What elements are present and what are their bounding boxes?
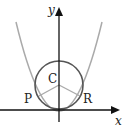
parabola-circle-diagram: y x C P R xyxy=(0,0,132,130)
y-axis-label: y xyxy=(47,3,55,17)
point-c-label: C xyxy=(48,72,57,86)
point-r-label: R xyxy=(83,92,93,106)
x-axis-arrow-icon xyxy=(111,106,120,114)
segment-cp xyxy=(39,85,59,96)
y-axis-arrow-icon xyxy=(55,7,63,16)
x-axis-label: x xyxy=(115,114,122,128)
point-p-label: P xyxy=(24,92,32,106)
segment-cr xyxy=(59,85,80,96)
